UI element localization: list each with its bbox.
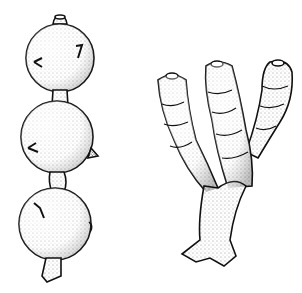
left-specimen bbox=[19, 15, 98, 282]
right-specimen bbox=[158, 60, 292, 266]
specimen-illustration bbox=[0, 0, 302, 293]
illustration-canvas bbox=[0, 0, 302, 293]
